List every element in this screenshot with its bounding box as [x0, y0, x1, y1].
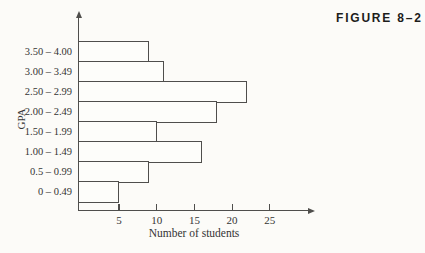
y-axis-category-label: 1.00 – 1.49	[0, 145, 72, 158]
figure-label: FIGURE 8–2	[336, 11, 423, 25]
y-axis-category-label: 3.50 – 4.00	[0, 45, 72, 58]
x-axis-tick-mark	[194, 204, 195, 211]
x-axis-tick-mark	[118, 204, 119, 211]
bar	[78, 121, 157, 143]
y-axis-category-label: 1.50 – 1.99	[0, 125, 72, 138]
y-axis-arrow-icon	[76, 11, 82, 18]
y-axis-category-label: 0.5 – 0.99	[0, 165, 72, 178]
bar	[78, 141, 202, 163]
bar	[78, 161, 149, 183]
x-axis-tick-mark	[232, 204, 233, 211]
x-axis-title: Number of students	[78, 227, 310, 239]
y-axis-category-label: 2.50 – 2.99	[0, 85, 72, 98]
x-axis-tick-mark	[156, 204, 157, 211]
bar	[78, 81, 247, 103]
x-axis-arrow-icon	[308, 208, 315, 214]
x-axis-tick-label: 25	[258, 214, 282, 226]
y-axis-title: GPA	[15, 69, 27, 169]
x-axis-tick-label: 5	[107, 214, 131, 226]
figure-page: FIGURE 8–2 3.50 – 4.003.00 – 3.492.50 – …	[0, 0, 425, 253]
x-axis-tick-label: 15	[182, 214, 206, 226]
bar	[78, 181, 119, 203]
y-axis-category-label: 0 – 0.49	[0, 185, 72, 198]
y-axis-category-label: 2.00 – 2.49	[0, 105, 72, 118]
bar	[78, 101, 217, 123]
x-axis-tick-label: 10	[145, 214, 169, 226]
x-axis-tick-label: 20	[220, 214, 244, 226]
x-axis-tick-mark	[269, 204, 270, 211]
y-axis-category-label: 3.00 – 3.49	[0, 65, 72, 78]
bar	[78, 41, 149, 63]
bar	[78, 61, 164, 83]
